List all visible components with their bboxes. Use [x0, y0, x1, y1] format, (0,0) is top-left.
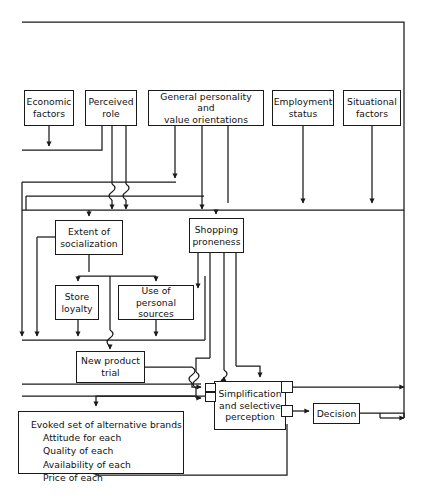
node-use-personal-sources[interactable]: Use of personal sources — [118, 285, 194, 320]
wire-perceived-hop-b — [123, 184, 129, 200]
node-label: Simplification and selective perception — [216, 388, 283, 423]
node-label: New product trial — [79, 355, 142, 378]
node-label: Decision — [315, 408, 359, 420]
node-label: Use of personal sources — [119, 285, 193, 320]
node-economic-factors[interactable]: Economic factors — [24, 90, 74, 126]
node-label: Perceived role — [86, 96, 135, 119]
node-simplification-selective-perception[interactable]: Simplification and selective perception — [214, 381, 286, 430]
node-perceived-role[interactable]: Perceived role — [85, 90, 137, 126]
wire-shopping-out-4b — [236, 366, 260, 377]
junction-simplification-top-right — [281, 381, 293, 393]
node-label: Economic factors — [25, 96, 74, 119]
junction-simplification-in-left2 — [205, 392, 216, 402]
node-label: Employment status — [272, 96, 335, 119]
wire-shopping-out-2hop — [193, 372, 199, 388]
wire-bus-under-economic — [22, 126, 102, 150]
node-general-personality[interactable]: General personality and value orientatio… — [148, 90, 264, 126]
node-label: General personality and value orientatio… — [149, 91, 263, 126]
node-decision[interactable]: Decision — [313, 403, 360, 424]
wire-perceived-hop-a — [109, 184, 115, 200]
node-label: Extent of socialization — [58, 226, 119, 249]
node-label: Situational factors — [345, 96, 399, 119]
node-label: Store loyalty — [59, 291, 94, 314]
wire-decision-to-right — [360, 413, 404, 418]
wire-evoked-feedback-top — [96, 396, 205, 406]
wire-shopping-out-2b — [196, 358, 210, 372]
node-store-loyalty[interactable]: Store loyalty — [55, 285, 99, 320]
evoked-set-heading: Evoked set of alternative brands — [19, 418, 183, 431]
wire-trial-hop — [107, 330, 113, 346]
wire-trial-out-hop — [189, 367, 195, 383]
node-new-product-trial[interactable]: New product trial — [76, 351, 145, 383]
node-label: Shopping proneness — [190, 224, 242, 247]
node-extent-socialization[interactable]: Extent of socialization — [55, 220, 123, 255]
evoked-set-items: Attitude for each Quality of each Availa… — [19, 431, 183, 484]
node-employment-status[interactable]: Employment status — [272, 90, 334, 126]
node-situational-factors[interactable]: Situational factors — [343, 90, 401, 126]
junction-simplification-in-left — [205, 383, 216, 392]
node-evoked-set[interactable]: Evoked set of alternative brands Attitud… — [18, 411, 184, 474]
node-shopping-proneness[interactable]: Shopping proneness — [189, 218, 244, 253]
junction-simplification-bot-right — [281, 405, 293, 417]
flowchart-canvas: Economic factors Perceived role General … — [0, 0, 423, 502]
